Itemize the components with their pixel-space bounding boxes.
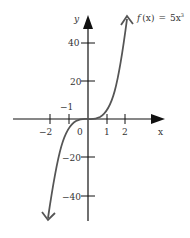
- x-axis-label: x: [158, 127, 163, 137]
- y-tick-label-neg40: −40: [62, 192, 81, 202]
- x-axis-arrow-icon: [151, 114, 165, 124]
- y-axis-arrow-icon: [83, 15, 93, 29]
- x-tick-label-neg2: −2: [39, 127, 52, 137]
- y-tick-label-20: 20: [70, 77, 82, 87]
- function-label: f(x)=5x3: [136, 12, 184, 23]
- y-tick-label-neg20: −20: [62, 153, 81, 163]
- x-tick-label-1: 1: [104, 127, 110, 137]
- cubic-function-chart: y x 40 20 −20 −40 −2 0 1 2 −1 f(x)=5x3: [0, 0, 190, 238]
- x-origin-label: 0: [77, 127, 83, 137]
- y-tick-label-40: 40: [68, 38, 80, 48]
- neg1-label: −1: [60, 102, 73, 112]
- x-tick-label-2: 2: [122, 127, 128, 137]
- y-axis-label: y: [73, 14, 80, 24]
